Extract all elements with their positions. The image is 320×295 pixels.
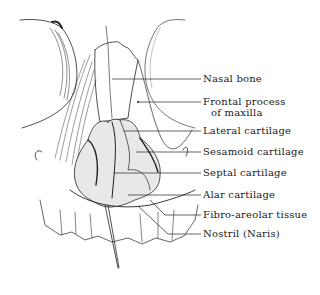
label-nostril: Nostril (Naris) [203,228,280,239]
label-alar-cartilage: Alar cartilage [203,189,275,200]
label-frontal-process-line1: Frontal process [203,96,286,107]
nasal-bones [95,42,138,122]
label-nasal-bone: Nasal bone [203,73,262,84]
leader-nostril [138,206,201,234]
leader-fibro-areolar [150,200,201,215]
label-septal-cartilage: Septal cartilage [203,167,287,178]
label-frontal-process: Frontal process of maxilla [203,96,286,118]
label-fibro-areolar-tissue: Fibro-areolar tissue [203,209,307,220]
left-orbit-shading [50,28,70,100]
label-sesamoid-cartilage: Sesamoid cartilage [203,146,304,157]
cartilage-mass [74,119,160,207]
probe [105,205,119,268]
label-lateral-cartilage: Lateral cartilage [203,125,291,136]
left-orbit-outline [20,19,77,128]
label-frontal-process-line2: of maxilla [203,107,286,118]
